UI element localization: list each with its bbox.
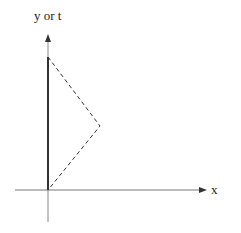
dashed-path bbox=[48, 57, 100, 190]
y-axis-arrow-icon bbox=[45, 34, 51, 42]
y-axis-label: y or t bbox=[34, 8, 62, 23]
x-axis-label: x bbox=[211, 182, 218, 197]
spacetime-diagram: y or t x bbox=[0, 0, 241, 233]
x-axis-arrow-icon bbox=[199, 187, 207, 193]
